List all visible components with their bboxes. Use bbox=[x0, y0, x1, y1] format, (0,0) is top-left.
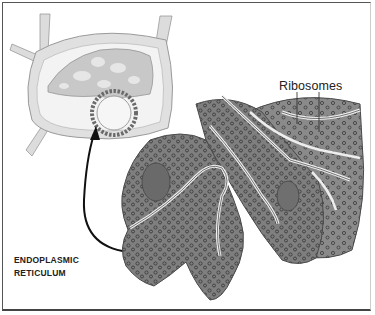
label-er-line1: ENDOPLASMIC bbox=[14, 254, 79, 267]
label-endoplasmic-reticulum: ENDOPLASMIC RETICULUM bbox=[14, 254, 79, 280]
label-er-line2: RETICULUM bbox=[14, 267, 79, 280]
pointer-arrow bbox=[84, 134, 128, 252]
plant-cell bbox=[10, 14, 173, 156]
label-ribosomes: Ribosomes bbox=[279, 79, 342, 93]
